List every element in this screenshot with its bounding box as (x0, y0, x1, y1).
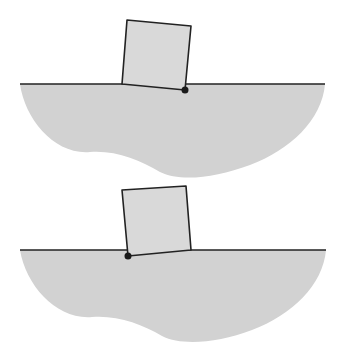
diagram-canvas (0, 0, 343, 358)
panel-bottom (20, 186, 326, 342)
curved-body (20, 84, 325, 178)
panel-top (20, 20, 325, 178)
curved-body (20, 250, 326, 342)
tilted-block (122, 20, 191, 90)
pivot-dot (125, 253, 132, 260)
pivot-dot (182, 87, 189, 94)
tilted-block (122, 186, 191, 256)
